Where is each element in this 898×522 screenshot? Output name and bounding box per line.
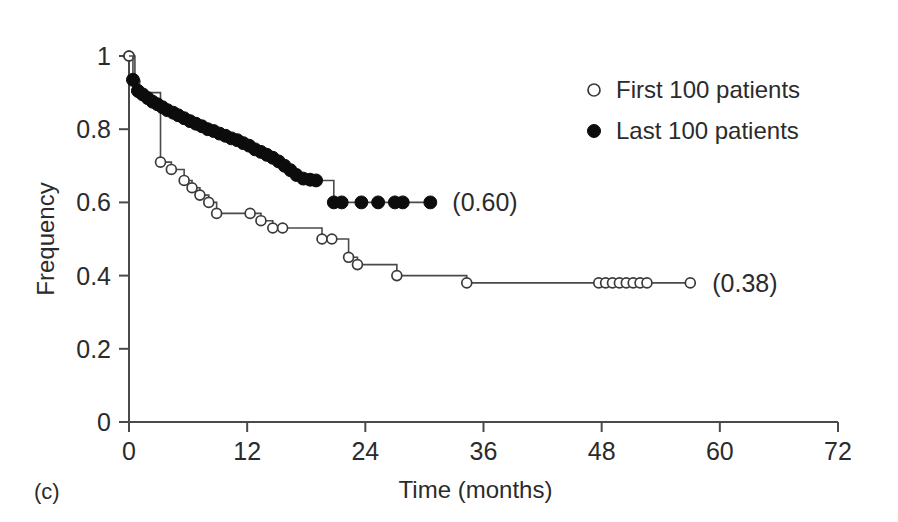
data-point-marker bbox=[212, 208, 222, 218]
y-tick-label: 0 bbox=[97, 408, 111, 436]
x-tick-label: 72 bbox=[824, 437, 852, 465]
data-point-marker bbox=[335, 196, 348, 209]
series-value-annotation: (0.38) bbox=[712, 269, 777, 297]
y-tick-label: 0.2 bbox=[76, 335, 111, 363]
data-point-marker bbox=[310, 174, 323, 187]
x-tick-label: 0 bbox=[122, 437, 136, 465]
data-point-marker bbox=[327, 234, 337, 244]
y-axis-title: Frequency bbox=[32, 182, 59, 295]
data-point-marker bbox=[355, 196, 368, 209]
x-tick-label: 60 bbox=[706, 437, 734, 465]
data-point-marker bbox=[372, 196, 385, 209]
panel-label-text: (c) bbox=[34, 479, 60, 504]
data-point-marker bbox=[187, 183, 197, 193]
data-point-marker bbox=[685, 278, 695, 288]
data-point-marker bbox=[195, 190, 205, 200]
data-point-marker bbox=[268, 223, 278, 233]
figure-panel-c: 012243648607200.20.40.60.81 (0.38)(0.60)… bbox=[0, 0, 898, 522]
data-series bbox=[124, 51, 695, 288]
legend-item-label: Last 100 patients bbox=[616, 117, 799, 144]
data-point-marker bbox=[396, 196, 409, 209]
data-point-marker bbox=[204, 197, 214, 207]
x-tick-label: 12 bbox=[233, 437, 261, 465]
survival-curve-chart: 012243648607200.20.40.60.81 (0.38)(0.60)… bbox=[0, 0, 898, 522]
data-point-marker bbox=[245, 208, 255, 218]
legend-item-label: First 100 patients bbox=[616, 76, 800, 103]
data-point-marker bbox=[256, 216, 266, 226]
x-axis-title: Time (months) bbox=[399, 476, 553, 503]
x-tick-label: 48 bbox=[588, 437, 616, 465]
data-point-marker bbox=[392, 271, 402, 281]
series-step-line bbox=[129, 56, 430, 202]
data-point-marker bbox=[179, 175, 189, 185]
chart-legend: First 100 patientsLast 100 patients bbox=[588, 76, 801, 144]
panel-label: (c) bbox=[34, 479, 60, 505]
y-tick-label: 0.6 bbox=[76, 188, 111, 216]
data-point-marker bbox=[156, 157, 166, 167]
axes: 012243648607200.20.40.60.81 bbox=[76, 42, 852, 465]
data-point-marker bbox=[642, 278, 652, 288]
legend-marker-open-circle bbox=[588, 84, 600, 96]
y-tick-label: 0.4 bbox=[76, 262, 111, 290]
data-point-marker bbox=[424, 196, 437, 209]
data-point-marker bbox=[344, 252, 354, 262]
legend-marker-filled-circle bbox=[588, 125, 601, 138]
data-point-marker bbox=[278, 223, 288, 233]
data-point-marker bbox=[166, 165, 176, 175]
data-point-marker bbox=[353, 260, 363, 270]
y-tick-label: 1 bbox=[97, 42, 111, 70]
y-tick-label: 0.8 bbox=[76, 115, 111, 143]
x-tick-label: 36 bbox=[470, 437, 498, 465]
data-point-marker bbox=[317, 234, 327, 244]
data-point-marker bbox=[462, 278, 472, 288]
x-tick-label: 24 bbox=[351, 437, 379, 465]
series-value-annotation: (0.60) bbox=[452, 188, 517, 216]
series-step-line bbox=[129, 56, 690, 283]
